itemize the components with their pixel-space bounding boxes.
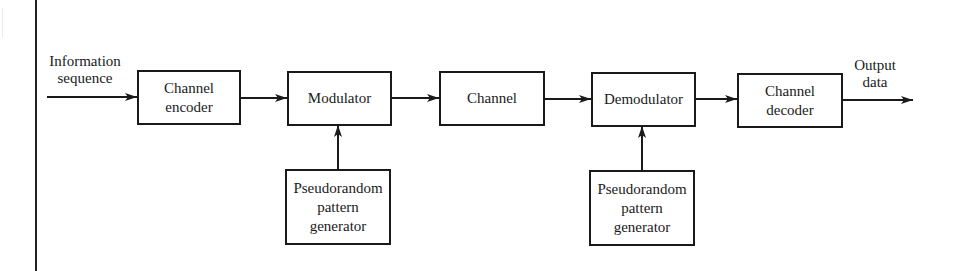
channel-decoder-label: Channel decoder: [765, 82, 815, 120]
modulator-label: Modulator: [308, 89, 371, 108]
pn-generator-tx-block: Pseudorandom pattern generator: [285, 169, 391, 245]
demodulator-label: Demodulator: [604, 90, 683, 109]
channel-label: Channel: [467, 89, 517, 108]
pn-generator-rx-block: Pseudorandom pattern generator: [589, 170, 695, 246]
demodulator-block: Demodulator: [591, 72, 696, 127]
modulator-block: Modulator: [287, 71, 392, 126]
output-label: Output data: [846, 57, 904, 91]
channel-decoder-block: Channel decoder: [737, 73, 843, 128]
connection-arrows: [0, 0, 960, 271]
block-diagram: Information sequence Output data Channel…: [0, 0, 960, 271]
channel-encoder-block: Channel encoder: [137, 70, 241, 125]
input-label: Information sequence: [44, 53, 126, 87]
channel-block: Channel: [439, 71, 545, 126]
pn-generator-rx-label: Pseudorandom pattern generator: [597, 180, 686, 237]
channel-encoder-label: Channel encoder: [164, 79, 214, 117]
pn-generator-tx-label: Pseudorandom pattern generator: [293, 179, 382, 236]
